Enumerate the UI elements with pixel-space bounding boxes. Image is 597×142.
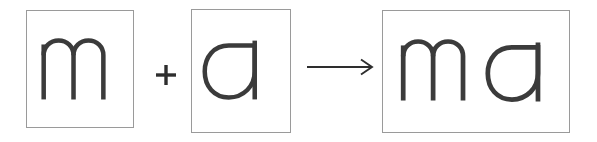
diagram-canvas: m + a -> ma m + a	[0, 0, 597, 142]
letter-card-ma: ma	[382, 10, 570, 133]
glyph-a	[192, 10, 290, 132]
glyph-m	[27, 11, 133, 127]
letter-card-m: m	[26, 10, 134, 128]
right-arrow-icon: →	[305, 56, 375, 78]
glyph-ma	[383, 11, 569, 132]
letter-card-a: a	[191, 9, 291, 133]
plus-icon: +	[152, 61, 180, 89]
